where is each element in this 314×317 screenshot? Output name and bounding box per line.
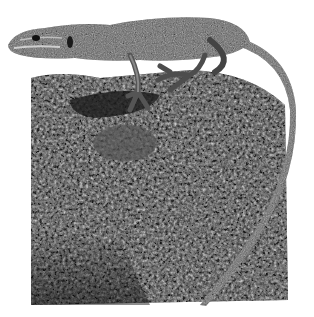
photo [0, 0, 314, 317]
ear [67, 36, 73, 48]
eye [32, 35, 40, 41]
rock [31, 70, 288, 305]
lizard-photo [0, 0, 314, 317]
